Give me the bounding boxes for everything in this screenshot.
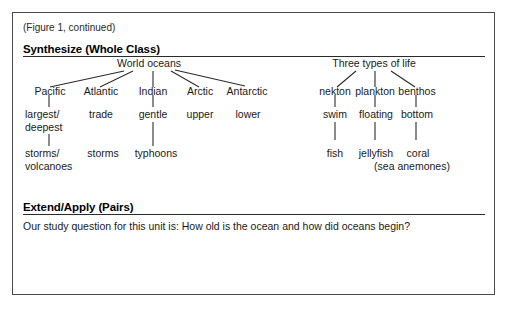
node-nekton-detail: swim	[323, 108, 347, 121]
figure-inner: (Figure 1, continued) Synthesize (Whole …	[13, 13, 494, 294]
figure-caption: (Figure 1, continued)	[23, 21, 485, 34]
node-nekton-example: fish	[327, 147, 343, 160]
node-benthos-detail: bottom	[401, 108, 433, 121]
synthesize-heading: Synthesize (Whole Class)	[23, 43, 485, 55]
node-plankton: plankton	[355, 85, 395, 98]
extend-apply-body: Our study question for this unit is: How…	[23, 219, 475, 233]
concept-map-connectors	[23, 57, 487, 197]
concept-map: World oceans Pacific Atlantic Indian Arc…	[23, 57, 487, 197]
node-pacific-detail-line2: deepest	[25, 121, 62, 134]
node-atlantic: Atlantic	[84, 85, 118, 98]
node-antarctic: Antarctic	[227, 85, 268, 98]
node-benthos: benthos	[398, 85, 435, 98]
node-plankton-detail: floating	[359, 108, 393, 121]
node-indian-effect: typhoons	[135, 147, 178, 160]
node-nekton: nekton	[319, 85, 351, 98]
node-pacific: Pacific	[35, 85, 66, 98]
node-pacific-effect-line2: volcanoes	[25, 160, 72, 173]
extend-apply-heading: Extend/Apply (Pairs)	[23, 201, 485, 213]
node-indian: Indian	[139, 85, 168, 98]
extend-apply-heading-rule	[23, 214, 485, 215]
node-three-types-of-life: Three types of life	[332, 57, 415, 70]
figure-box: (Figure 1, continued) Synthesize (Whole …	[12, 12, 495, 295]
node-indian-detail: gentle	[139, 108, 168, 121]
node-pacific-effect-line1: storms/	[25, 147, 59, 160]
node-atlantic-effect: storms	[87, 147, 119, 160]
node-pacific-detail-line1: largest/	[25, 108, 59, 121]
node-arctic-detail: upper	[187, 108, 214, 121]
node-atlantic-detail: trade	[89, 108, 113, 121]
node-benthos-example: coral	[407, 147, 430, 160]
node-sea-anemones-note: (sea anemones)	[374, 160, 450, 173]
node-antarctic-detail: lower	[235, 108, 260, 121]
node-arctic: Arctic	[187, 85, 213, 98]
node-plankton-example: jellyfish	[359, 147, 393, 160]
node-world-oceans: World oceans	[117, 57, 181, 70]
